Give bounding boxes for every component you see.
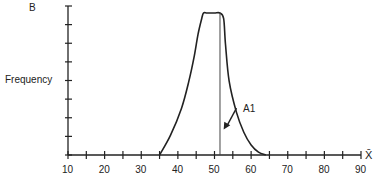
x-tick-label: 40 — [172, 165, 183, 175]
x-tick-label: 20 — [99, 165, 110, 175]
x-tick-label: 10 — [62, 165, 73, 175]
x-tick-label: 30 — [135, 165, 146, 175]
x-tick-label: 60 — [245, 165, 256, 175]
arrow-a1 — [227, 108, 237, 126]
x-tick-label: 80 — [318, 165, 329, 175]
chart-plot — [0, 0, 378, 183]
x-tick-label: 90 — [355, 165, 366, 175]
x-tick-label: 70 — [282, 165, 293, 175]
x-tick-label: 50 — [209, 165, 220, 175]
distribution-curve — [160, 13, 266, 155]
